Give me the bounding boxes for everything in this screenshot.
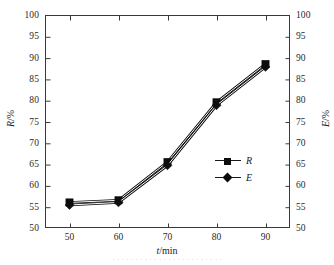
y-left-tick-95: 95 [13,31,39,41]
y-left-tick-55: 55 [13,202,39,212]
y-right-tick-85: 85 [296,74,322,84]
x-tick-80: 80 [202,232,232,242]
y-axis-right-title-unit: /% [320,110,331,121]
legend-item-e: E [215,169,252,186]
y-right-tick-95: 95 [296,31,322,41]
y-left-tick-90: 90 [13,53,39,63]
y-left-tick-60: 60 [13,180,39,190]
y-right-tick-100: 100 [296,10,322,20]
y-left-tick-75: 75 [13,117,39,127]
data-series-layer [45,15,290,228]
y-left-tick-80: 80 [13,95,39,105]
y-right-tick-90: 90 [296,53,322,63]
x-tick-70: 70 [153,232,183,242]
y-right-tick-75: 75 [296,117,322,127]
y-left-tick-85: 85 [13,74,39,84]
y-left-tick-70: 70 [13,138,39,148]
y-right-tick-80: 80 [296,95,322,105]
filled-square-marker-icon [215,155,241,167]
y-right-tick-65: 65 [296,159,322,169]
legend-label-r: R [246,155,252,166]
y-left-tick-50: 50 [13,223,39,233]
y-right-tick-70: 70 [296,138,322,148]
y-axis-left-title: R/% [5,97,16,141]
x-tick-60: 60 [104,232,134,242]
legend-label-e: E [246,172,252,183]
y-axis-right-title-var: E [320,121,331,127]
y-axis-right-title: E/% [320,97,331,141]
filled-diamond-marker-icon [215,172,241,184]
y-right-tick-55: 55 [296,202,322,212]
x-tick-90: 90 [251,232,281,242]
y-right-tick-60: 60 [296,180,322,190]
y-axis-left-title-unit: /% [5,110,16,121]
x-tick-50: 50 [55,232,85,242]
y-left-tick-65: 65 [13,159,39,169]
figure-container: 10095908580757065605550 1009590858075706… [0,0,334,265]
legend-item-r: R [215,152,252,169]
chart-legend: R E [215,152,252,186]
y-axis-left-title-var: R [5,121,16,127]
y-left-tick-100: 100 [13,10,39,20]
figure-caption-remnant: · · · · · · · · · · · · · · · · · · · · … [0,255,334,264]
y-right-tick-50: 50 [296,223,322,233]
